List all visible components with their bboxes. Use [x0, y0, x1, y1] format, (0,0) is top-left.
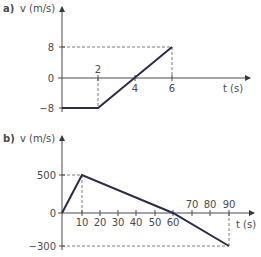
y-tick-minus-8: −8 — [39, 103, 54, 114]
x-tick-10: 10 — [76, 217, 89, 228]
x-tick-60: 60 — [167, 217, 180, 228]
data-line-b — [62, 175, 229, 246]
x-tick-2: 2 — [95, 64, 101, 75]
y-tick-0-a: 0 — [48, 73, 54, 84]
chart-canvas: a) v (m/s) 8 0 −8 2 4 6 t (s) b) v (m/s) — [0, 0, 261, 257]
x-tick-50: 50 — [149, 217, 162, 228]
x-tick-20: 20 — [94, 217, 107, 228]
x-tick-4: 4 — [132, 83, 138, 94]
y-tick-minus-300: −300 — [29, 241, 56, 252]
y-tick-500: 500 — [37, 170, 56, 181]
x-tick-30: 30 — [112, 217, 125, 228]
y-axis-label-a: v (m/s) — [20, 3, 55, 14]
panel-label-a: a) — [3, 3, 14, 14]
x-axis-label-a: t (s) — [223, 83, 243, 94]
x-tick-80: 80 — [204, 199, 217, 210]
panel-label-b: b) — [3, 133, 15, 144]
chart-b: b) v (m/s) 500 0 −300 10 20 30 40 50 60 … — [3, 133, 256, 252]
x-tick-40: 40 — [130, 217, 143, 228]
y-tick-0-b: 0 — [50, 208, 56, 219]
x-tick-6: 6 — [169, 83, 175, 94]
y-tick-8: 8 — [48, 42, 54, 53]
x-tick-70: 70 — [186, 199, 199, 210]
x-axis-label-b: t (s) — [236, 219, 256, 230]
x-tick-90: 90 — [223, 199, 236, 210]
y-axis-label-b: v (m/s) — [20, 133, 55, 144]
chart-a: a) v (m/s) 8 0 −8 2 4 6 t (s) — [3, 3, 250, 114]
